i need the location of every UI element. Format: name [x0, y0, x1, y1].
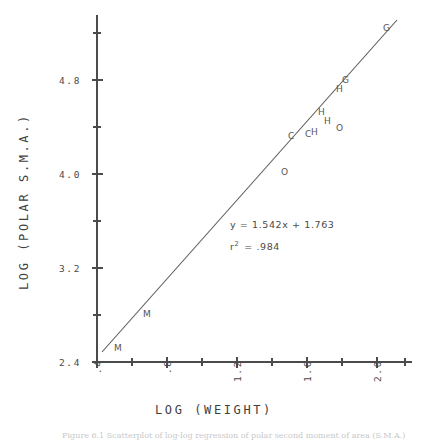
- data-point-marker: O: [336, 123, 343, 133]
- x-tick-label-1-6: 1.6: [302, 360, 313, 382]
- data-point-marker: M: [114, 343, 122, 353]
- data-point-marker: H: [324, 116, 331, 126]
- data-point-marker: O: [281, 167, 288, 177]
- regression-annotation: y = 1.542x + 1.763 r2= .984: [230, 219, 334, 252]
- data-point-marker: M: [143, 309, 151, 319]
- x-axis-title: LOG (WEIGHT): [155, 403, 273, 417]
- figure-container: 4.8 4.0 3.2 2.4 .4 .8 1.2 1.6 2.0 L: [0, 0, 426, 441]
- data-point-marker: G: [342, 75, 349, 85]
- y-axis-title: LOG (POLAR S.M.A.): [17, 113, 31, 290]
- r-squared-exponent: 2: [235, 240, 240, 248]
- x-tick-label-2-0: 2.0: [372, 360, 383, 382]
- x-tick-label-0-8: .8: [162, 359, 173, 374]
- y-tick-label-2-4: 2.4: [59, 357, 81, 368]
- data-point-marker: C: [288, 131, 294, 141]
- scatter-plot: 4.8 4.0 3.2 2.4 .4 .8 1.2 1.6 2.0 L: [0, 0, 426, 441]
- y-tick-label-3-2: 3.2: [59, 263, 81, 274]
- r-squared-label: r2= .984: [230, 240, 280, 252]
- y-tick-label-4-8: 4.8: [59, 75, 81, 86]
- data-point-marker: H: [311, 127, 318, 137]
- regression-line: [102, 20, 397, 352]
- x-tick-label-1-2: 1.2: [232, 360, 243, 382]
- regression-equation-label: y = 1.542x + 1.763: [230, 219, 334, 230]
- r-squared-value: = .984: [244, 241, 280, 252]
- data-points-group: M M O C C H H H O H G G: [114, 23, 390, 353]
- x-tick-label-0-4: .4: [92, 359, 103, 374]
- y-axis-tick-labels: 4.8 4.0 3.2 2.4: [59, 75, 81, 368]
- data-point-marker: G: [383, 23, 390, 33]
- figure-caption: Figure 6.1 Scatterplot of log-log regres…: [62, 431, 405, 440]
- data-point-marker: H: [336, 84, 343, 94]
- y-tick-label-4-0: 4.0: [59, 169, 81, 180]
